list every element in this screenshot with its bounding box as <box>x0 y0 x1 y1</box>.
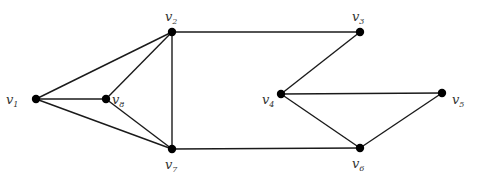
nodes-group <box>32 28 446 153</box>
node-label-v3: v3 <box>352 9 364 26</box>
node-label-v1: v1 <box>6 92 18 109</box>
node-label-v4: v4 <box>262 92 274 109</box>
edges-group <box>36 32 442 149</box>
graph-diagram: v1v2v3v4v5v6v7v8 <box>0 0 478 182</box>
node-v4 <box>277 90 285 98</box>
node-label-v7: v7 <box>165 157 178 174</box>
edge-v1-v2 <box>36 32 172 99</box>
node-label-subscript: 7 <box>172 165 178 174</box>
edge-v1-v7 <box>36 99 172 149</box>
node-v2 <box>168 28 176 36</box>
node-v5 <box>438 89 446 97</box>
node-v6 <box>356 144 364 152</box>
edge-v5-v6 <box>360 93 442 148</box>
node-label-subscript: 1 <box>13 100 18 109</box>
edge-v4-v5 <box>281 93 442 94</box>
node-label-v8: v8 <box>112 92 124 109</box>
node-label-subscript: 2 <box>171 17 177 26</box>
node-label-subscript: 3 <box>359 17 364 26</box>
node-label-v6: v6 <box>352 156 364 173</box>
node-label-subscript: 6 <box>359 164 364 173</box>
node-label-v2: v2 <box>165 9 177 26</box>
edge-v7-v6 <box>172 148 360 149</box>
node-label-subscript: 5 <box>459 100 464 109</box>
node-label-v5: v5 <box>452 92 464 109</box>
node-v7 <box>168 145 176 153</box>
node-v3 <box>356 28 364 36</box>
node-label-subscript: 4 <box>268 100 274 109</box>
edge-v4-v6 <box>281 94 360 148</box>
node-label-subscript: 8 <box>119 100 124 109</box>
node-v8 <box>102 95 110 103</box>
edge-v8-v2 <box>106 32 172 99</box>
node-v1 <box>32 95 40 103</box>
edge-v3-v4 <box>281 32 360 94</box>
